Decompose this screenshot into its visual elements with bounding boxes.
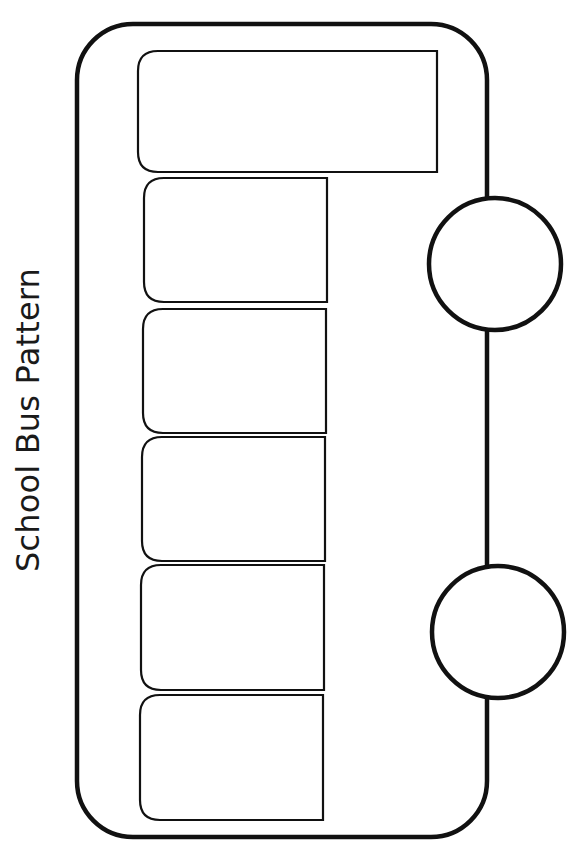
bus-wheel-2 [432, 566, 564, 698]
bus-wheel-1 [429, 198, 561, 330]
school-bus-pattern [0, 0, 582, 858]
